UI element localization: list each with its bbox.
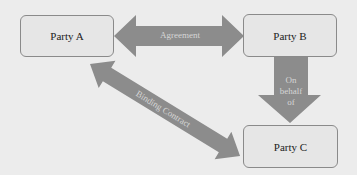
party-b-box: Party B	[243, 14, 337, 57]
party-a-box: Party A	[20, 15, 114, 57]
agreement-label: Agreement	[150, 30, 210, 41]
on-behalf-of-label: On behalf of	[276, 75, 306, 108]
party-c-box: Party C	[243, 125, 338, 168]
